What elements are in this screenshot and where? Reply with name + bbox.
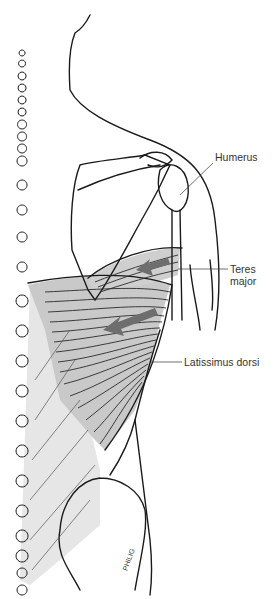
arm-outline	[190, 260, 213, 330]
label-teres-line2: major	[230, 275, 256, 287]
label-teres-major: Teres major	[230, 263, 256, 287]
label-latissimus-dorsi: Latissimus dorsi	[184, 356, 259, 368]
humerus-head	[158, 165, 188, 211]
anatomy-illustration	[0, 0, 276, 599]
scapular-spine	[78, 165, 160, 190]
label-teres-line1: Teres	[230, 263, 256, 275]
label-humerus: Humerus	[215, 151, 258, 163]
